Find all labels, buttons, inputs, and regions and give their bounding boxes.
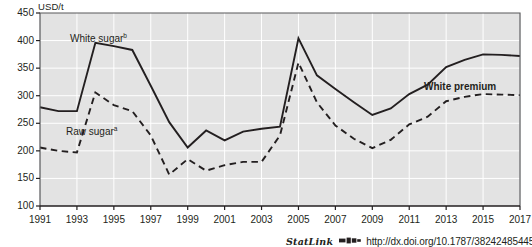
statlink-word: StatLink — [286, 236, 333, 247]
series-annotation-text: Raw sugar — [66, 126, 114, 137]
statlink-footer: StatLink http://dx.doi.org/10.1787/38242… — [286, 231, 532, 245]
x-axis-tick-label: 1997 — [140, 215, 162, 225]
series-annotation-white-premium: White premium — [424, 81, 496, 92]
x-axis-tick-label: 2001 — [213, 215, 235, 225]
series-annotation-raw-sugar: Raw sugara — [66, 126, 117, 137]
x-axis-tick-label: 2003 — [250, 215, 272, 225]
series-annotation-footnote-marker: b — [123, 32, 127, 39]
x-axis-tick-label: 2007 — [324, 215, 346, 225]
series-annotation-white-sugar: White sugarb — [70, 33, 127, 44]
x-axis-tick-label: 1995 — [103, 215, 125, 225]
x-axis-tick-label: 2009 — [361, 215, 383, 225]
x-axis-tick-label: 2011 — [398, 215, 420, 225]
x-axis-tick-label: 2005 — [287, 215, 309, 225]
statlink-badge-icon — [339, 230, 361, 237]
x-axis-tick-label: 2013 — [435, 215, 457, 225]
x-axis-tick-label: 2017 — [509, 215, 531, 225]
sugar-price-chart-figure: USD/t 100150200250300350400450 199119931… — [0, 0, 532, 247]
series-annotation-footnote-marker: a — [114, 125, 118, 132]
x-axis-tick-label: 2015 — [472, 215, 494, 225]
statlink-url[interactable]: http://dx.doi.org/10.1787/382424854452 — [366, 236, 532, 247]
x-axis-tick-label: 1993 — [66, 215, 88, 225]
x-axis-tick-label: 1999 — [177, 215, 199, 225]
series-annotation-text: White premium — [424, 81, 496, 92]
series-annotation-text: White sugar — [70, 33, 123, 44]
x-axis-tick-label: 1991 — [29, 215, 51, 225]
